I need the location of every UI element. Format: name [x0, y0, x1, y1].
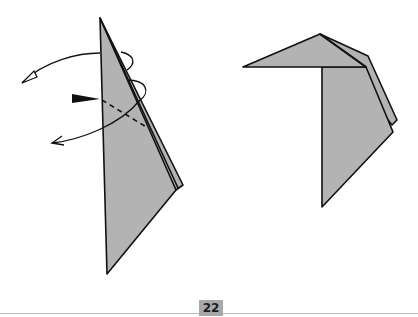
- main-body: [100, 18, 176, 274]
- right-step-figure: [243, 34, 397, 207]
- push-arrow-icon: [72, 94, 100, 103]
- origami-diagram: [0, 0, 418, 317]
- page-number-badge: 22: [199, 300, 223, 316]
- left-step-figure: [100, 18, 183, 274]
